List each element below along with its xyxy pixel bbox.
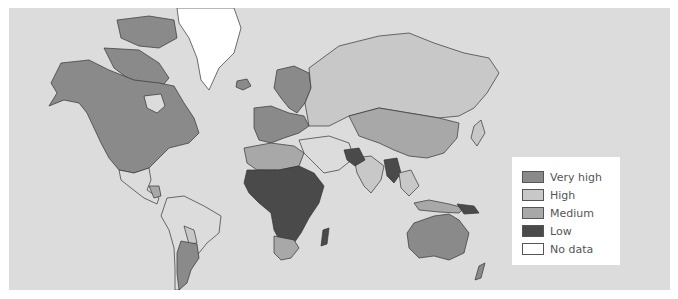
world-map: Very high High Medium Low No data <box>9 8 670 290</box>
region-myanmar <box>384 158 401 183</box>
legend-item-high: High <box>522 186 620 204</box>
legend-item-medium: Medium <box>522 204 620 222</box>
legend-swatch <box>522 189 544 201</box>
legend-label: Very high <box>550 171 602 184</box>
legend-item-no-data: No data <box>522 240 620 258</box>
region-indonesia <box>414 200 464 213</box>
region-argentina-chile <box>177 241 199 290</box>
region-iceland <box>236 79 251 90</box>
region-southeast-asia <box>399 170 419 196</box>
legend-swatch <box>522 225 544 237</box>
legend-label: High <box>550 189 575 202</box>
legend-label: Medium <box>550 207 594 220</box>
region-papua <box>457 204 479 214</box>
region-greenland <box>177 8 241 90</box>
region-western-europe <box>254 106 309 143</box>
legend-item-low: Low <box>522 222 620 240</box>
region-sub-saharan-africa <box>244 166 324 243</box>
region-japan <box>471 120 485 146</box>
legend-label: No data <box>550 243 593 256</box>
region-north-america <box>49 60 199 173</box>
region-north-africa <box>244 143 304 170</box>
legend-item-very-high: Very high <box>522 168 620 186</box>
region-madagascar <box>321 228 329 246</box>
legend-swatch <box>522 207 544 219</box>
region-australia <box>407 214 469 260</box>
legend-label: Low <box>550 225 572 238</box>
region-new-zealand <box>475 263 485 280</box>
map-legend: Very high High Medium Low No data <box>512 157 620 265</box>
legend-swatch <box>522 243 544 255</box>
legend-swatch <box>522 171 544 183</box>
